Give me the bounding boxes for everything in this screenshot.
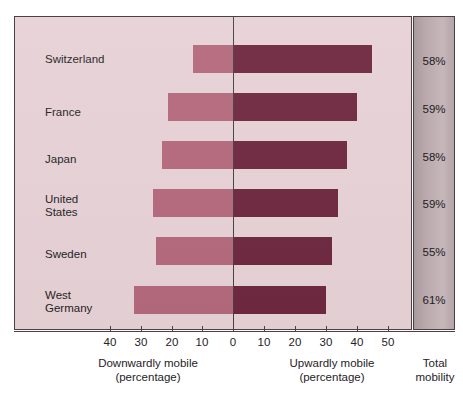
bar-downward (162, 141, 233, 169)
bar-upward (233, 45, 372, 73)
x-axis-tick-label: 20 (280, 336, 310, 348)
category-label: West Germany (45, 289, 92, 315)
category-label: United States (45, 193, 78, 219)
bar-upward (233, 286, 326, 314)
x-axis-tick (141, 326, 142, 331)
plot-area: SwitzerlandFranceJapanUnited StatesSwede… (14, 16, 412, 330)
bar-downward (134, 286, 233, 314)
caption-downward: Downwardly mobile (percentage) (68, 356, 228, 384)
x-axis-tick (264, 326, 265, 331)
category-label: Japan (45, 153, 76, 166)
category-label: Switzerland (45, 53, 104, 66)
x-axis-tick (388, 326, 389, 331)
x-axis-tick-label: 40 (95, 336, 125, 348)
bar-upward (233, 93, 357, 121)
x-axis-tick (295, 326, 296, 331)
x-axis-tick (326, 326, 327, 331)
x-axis-tick-label: 20 (157, 336, 187, 348)
bar-upward (233, 237, 332, 265)
x-axis-tick-label: 30 (126, 336, 156, 348)
total-mobility-value: 59% (414, 198, 454, 210)
x-axis-tick-label: 0 (218, 336, 248, 348)
total-mobility-value: 55% (414, 246, 454, 258)
category-label: France (45, 106, 81, 119)
total-mobility-value: 59% (414, 103, 454, 115)
caption-total-mobility: Total mobility (410, 356, 460, 384)
bar-upward (233, 189, 338, 217)
bar-upward (233, 141, 347, 169)
zero-axis-line (233, 17, 234, 329)
total-mobility-value: 61% (414, 294, 454, 306)
category-label: Sweden (45, 248, 87, 261)
x-axis-line (14, 331, 455, 332)
x-axis-tick (357, 326, 358, 331)
bar-downward (168, 93, 233, 121)
x-axis-tick-label: 30 (311, 336, 341, 348)
x-axis-tick-label: 10 (187, 336, 217, 348)
caption-upward: Upwardly mobile (percentage) (262, 356, 402, 384)
mobility-bar-chart: SwitzerlandFranceJapanUnited StatesSwede… (0, 0, 463, 394)
bar-downward (156, 237, 233, 265)
total-mobility-panel: 58%59%58%59%55%61% (413, 16, 455, 330)
bar-downward (153, 189, 233, 217)
x-axis-tick-label: 40 (342, 336, 372, 348)
x-axis-tick (233, 326, 234, 331)
bar-downward (193, 45, 233, 73)
total-mobility-value: 58% (414, 55, 454, 67)
x-axis-tick (202, 326, 203, 331)
x-axis-tick (172, 326, 173, 331)
x-axis-tick-label: 50 (373, 336, 403, 348)
x-axis-tick (110, 326, 111, 331)
x-axis-tick-label: 10 (249, 336, 279, 348)
total-mobility-value: 58% (414, 151, 454, 163)
